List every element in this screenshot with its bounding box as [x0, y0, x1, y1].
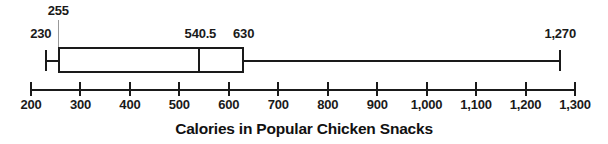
whisker-min-cap: [45, 50, 47, 71]
value-label-max: 1,270: [528, 27, 592, 41]
axis-tick-label: 1,300: [547, 98, 603, 112]
axis-tick-label: 1,000: [399, 98, 455, 112]
axis-tick: [574, 82, 576, 96]
axis-tick-label: 1,100: [448, 98, 504, 112]
value-label-q1: 255: [26, 4, 90, 18]
chart-title: Calories in Popular Chicken Snacks: [0, 120, 608, 138]
axis-tick: [79, 82, 81, 96]
axis-tick-label: 500: [151, 98, 207, 112]
axis-tick-label: 200: [3, 98, 59, 112]
axis-line: [31, 89, 575, 91]
boxplot-figure: 2003004005006007008009001,0001,1001,2001…: [0, 0, 608, 144]
value-label-min: 230: [9, 27, 73, 41]
axis-tick: [327, 82, 329, 96]
axis-tick-label: 900: [349, 98, 405, 112]
axis-tick-label: 1,200: [498, 98, 554, 112]
whisker-line-right: [244, 60, 561, 62]
axis-tick-label: 800: [300, 98, 356, 112]
axis-tick: [178, 82, 180, 96]
median-line: [198, 47, 200, 73]
iqr-box: [58, 47, 243, 73]
axis-tick-label: 300: [52, 98, 108, 112]
axis-tick-label: 400: [102, 98, 158, 112]
axis-tick: [30, 82, 32, 96]
axis-tick: [426, 82, 428, 96]
value-label-q3: 630: [212, 27, 276, 41]
axis-tick-label: 700: [250, 98, 306, 112]
axis-tick: [525, 82, 527, 96]
axis-tick-label: 600: [201, 98, 257, 112]
axis-tick: [376, 82, 378, 96]
axis-tick: [277, 82, 279, 96]
whisker-max-cap: [559, 50, 561, 71]
axis-tick: [129, 82, 131, 96]
axis-tick: [228, 82, 230, 96]
whisker-line-left: [46, 60, 58, 62]
axis-tick: [475, 82, 477, 96]
